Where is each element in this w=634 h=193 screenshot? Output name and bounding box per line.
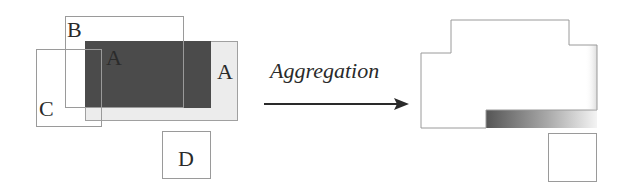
aggregated-region-d <box>548 133 597 182</box>
aggregated-region <box>0 0 634 193</box>
